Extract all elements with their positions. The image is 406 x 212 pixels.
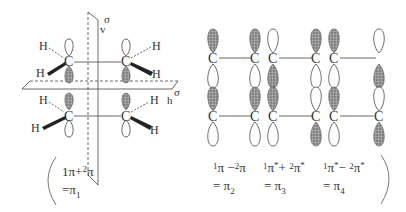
carbon-atom: C <box>250 51 259 66</box>
hydrogen-atom: H <box>152 39 161 53</box>
right-parenthesis <box>381 155 389 204</box>
lower-ethylene: C C H H H H <box>31 93 159 137</box>
carbon-atom: C <box>64 54 73 69</box>
pi4-combination: 1π*− 2π* <box>323 160 365 175</box>
right-panel-orbital-combinations: C C C C C C C C <box>208 29 389 204</box>
orbital-diagram: σ v σ h C C H H H H <box>0 0 406 212</box>
hydrogen-atom: H <box>150 93 159 107</box>
orbital-pi2: C C C C <box>208 29 261 146</box>
carbon-atom: C <box>311 51 320 66</box>
hydrogen-atom: H <box>31 121 40 135</box>
hydrogen-atom: H <box>39 93 48 107</box>
hydrogen-atom: H <box>150 123 159 137</box>
carbon-atom: C <box>208 51 217 66</box>
pi2-label: = π2 <box>213 178 235 196</box>
pi1-combination: 1π+2π <box>62 164 94 179</box>
pi3-label: = π3 <box>264 178 286 196</box>
carbon-atom: C <box>64 109 73 124</box>
orbital-pi4: C C C <box>329 29 385 146</box>
hydrogen-atom: H <box>39 39 48 53</box>
upper-ethylene: C C H H H H <box>36 39 161 83</box>
left-panel-ethylene-dimer: σ v σ h C C H H H H <box>22 12 180 205</box>
left-parenthesis <box>48 157 56 205</box>
sigma-h-label: σ <box>174 86 180 98</box>
carbon-atom: C <box>311 109 320 124</box>
pi2-combination: 1π −2π <box>213 160 246 175</box>
orbital-pi3: C C C C <box>268 29 322 146</box>
carbon-atom: C <box>121 54 130 69</box>
carbon-atom: C <box>121 109 130 124</box>
carbon-atom: C <box>208 109 217 124</box>
sigma-v-plane <box>88 12 98 185</box>
carbon-atom: C <box>250 109 259 124</box>
carbon-atom: C <box>329 51 338 66</box>
pi3-combination: 1π*+ 2π* <box>263 160 305 175</box>
carbon-atom: C <box>374 109 383 124</box>
carbon-atom: C <box>329 109 338 124</box>
carbon-atom: C <box>268 109 277 124</box>
pi1-label: =π1 <box>62 182 80 200</box>
sigma-h-subscript: h <box>167 94 173 106</box>
sigma-v-subscript: v <box>100 23 106 35</box>
pi4-label: = π4 <box>323 178 345 196</box>
carbon-atom: C <box>268 51 277 66</box>
sigma-h-plane <box>22 81 178 89</box>
hydrogen-atom: H <box>36 66 45 80</box>
hydrogen-atom: H <box>152 67 161 81</box>
